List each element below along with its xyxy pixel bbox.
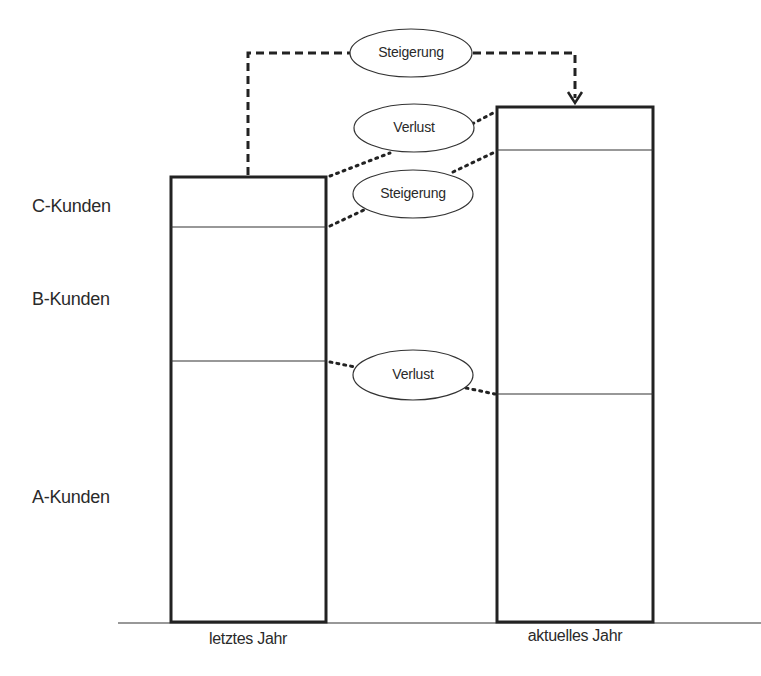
- row-label-c: C-Kunden: [32, 196, 111, 217]
- row-label-a: A-Kunden: [32, 487, 110, 508]
- row-label-b: B-Kunden: [32, 289, 110, 310]
- a-loss-label: Verlust: [353, 366, 473, 382]
- c-loss-label: Verlust: [354, 119, 474, 135]
- total-increase-label: Steigerung: [350, 44, 472, 60]
- bar-current-year: [497, 107, 653, 622]
- bar-last-year: [171, 177, 326, 622]
- x-label-last-year: letztes Jahr: [148, 630, 348, 648]
- x-label-current-year: aktuelles Jahr: [475, 627, 675, 645]
- b-increase-label: Steigerung: [353, 185, 473, 201]
- diagram-canvas: [0, 0, 761, 676]
